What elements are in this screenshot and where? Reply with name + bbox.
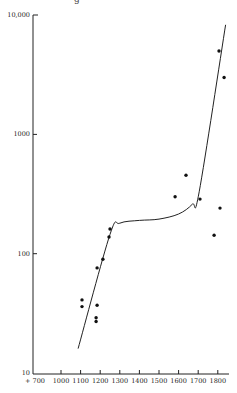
data-point [95, 304, 98, 307]
x-ticks: + 70010001100120013001400150016001700180… [25, 370, 226, 385]
data-point [198, 197, 201, 200]
x-tick-label: 1000 [53, 377, 70, 385]
data-points [80, 49, 226, 323]
data-point [94, 316, 97, 319]
x-tick-label: 1200 [92, 377, 109, 385]
y-tick-label: 10,000 [7, 11, 30, 19]
data-point [101, 258, 104, 261]
axes [33, 15, 229, 374]
data-point [80, 305, 83, 308]
x-tick-label: 1600 [170, 377, 187, 385]
y-tick-label: 100 [18, 250, 30, 258]
x-tick-label: 1100 [72, 377, 89, 385]
data-point [80, 298, 83, 301]
data-point [107, 235, 110, 238]
y-tick-label: 10 [22, 369, 30, 377]
x-tick-label: 1800 [210, 377, 227, 385]
data-point [184, 174, 187, 177]
data-point [222, 76, 225, 79]
data-point [94, 320, 97, 323]
x-tick-label: 1400 [131, 377, 148, 385]
fitted-curve [78, 25, 226, 349]
data-point [173, 195, 176, 198]
log-scale-chart: 10,000100010010 + 7001000110012001300140… [0, 0, 237, 393]
data-point [95, 266, 98, 269]
x-tick-label: 1500 [151, 377, 168, 385]
x-tick-label: 1300 [112, 377, 129, 385]
data-point [217, 49, 220, 52]
data-point [218, 206, 221, 209]
x-tick-label: 1700 [190, 377, 207, 385]
data-point [212, 234, 215, 237]
x-tick-label: + 700 [25, 377, 45, 385]
data-point [108, 227, 111, 230]
y-tick-label: 1000 [13, 130, 30, 138]
